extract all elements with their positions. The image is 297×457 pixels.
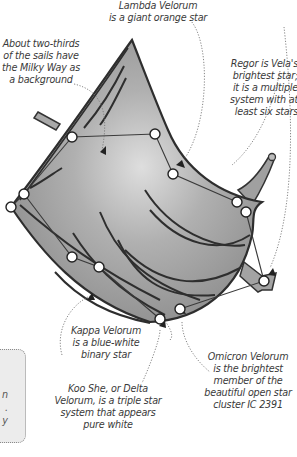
star-12 [259, 276, 269, 286]
star-9 [94, 262, 104, 272]
label-delta-velorum: Koo She, or Delta Velorum, is a triple s… [48, 383, 168, 431]
star-6 [6, 202, 16, 212]
star-10 [155, 314, 165, 324]
label-regor: Regor is Vela's brightest star; it is a … [212, 58, 297, 118]
label-omicron-velorum: Omicron Velorum is the brightest member … [196, 351, 297, 411]
label-lambda-velorum: Lambda Velorum is a giant orange star [88, 0, 228, 24]
star-8 [67, 252, 77, 262]
star-7 [19, 189, 29, 199]
star-3 [168, 169, 178, 179]
label-kappa-velorum: Kappa Velorum is a blue-white binary sta… [58, 325, 154, 361]
star-11 [175, 304, 185, 314]
star-1 [67, 132, 77, 142]
star-4 [232, 197, 242, 207]
label-milky-way: About two-thirds of the sails have the M… [0, 38, 82, 86]
star-5 [241, 207, 251, 217]
star-2 [150, 129, 160, 139]
mast-stub [34, 112, 60, 130]
side-note-text: n . y [0, 388, 8, 427]
